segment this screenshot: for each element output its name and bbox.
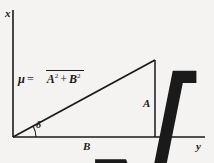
radical-surd-icon [37,70,214,163]
magnitude-formula: μ= A2+B2 [18,70,84,87]
triangle-diagram: x y A B δ μ= A2+B2 [0,0,214,163]
formula-lhs-mu: μ [18,72,25,86]
square-root-radical: A2+B2 [37,70,84,87]
vertical-axis-label: x [5,8,11,19]
formula-equals-sign: = [27,72,34,86]
